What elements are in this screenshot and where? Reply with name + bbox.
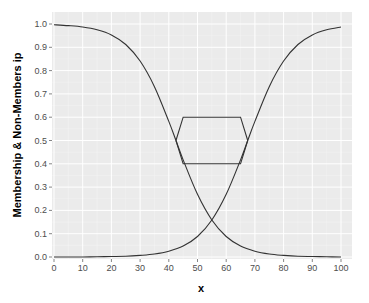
- x-tick-label: 0: [51, 263, 56, 273]
- x-tick-label: 70: [250, 263, 260, 273]
- y-tick-label: 0.4: [34, 159, 47, 169]
- x-tick-label: 30: [135, 263, 145, 273]
- y-tick-label: 0.6: [34, 112, 47, 122]
- y-tick-label: 0.0: [34, 252, 47, 262]
- x-tick-label: 80: [279, 263, 289, 273]
- x-axis: 0102030405060708090100: [51, 259, 348, 273]
- y-tick-label: 0.8: [34, 66, 47, 76]
- y-tick-label: 0.7: [34, 89, 47, 99]
- x-tick-label: 50: [192, 263, 202, 273]
- y-tick-label: 0.2: [34, 205, 47, 215]
- y-axis: 0.00.10.20.30.40.50.60.70.80.91.0: [34, 19, 52, 262]
- y-tick-label: 0.9: [34, 42, 47, 52]
- x-axis-title: x: [198, 282, 205, 294]
- y-axis-title: Membership & Non-Members ip: [11, 52, 23, 217]
- y-tick-label: 0.5: [34, 136, 47, 146]
- x-tick-label: 40: [164, 263, 174, 273]
- x-tick-label: 10: [78, 263, 88, 273]
- y-tick-label: 0.3: [34, 182, 47, 192]
- y-tick-label: 1.0: [34, 19, 47, 29]
- x-tick-label: 20: [106, 263, 116, 273]
- y-tick-label: 0.1: [34, 229, 47, 239]
- membership-chart: 0.00.10.20.30.40.50.60.70.80.91.0 010203…: [0, 0, 369, 303]
- x-tick-label: 100: [333, 263, 348, 273]
- x-tick-label: 90: [307, 263, 317, 273]
- x-tick-label: 60: [221, 263, 231, 273]
